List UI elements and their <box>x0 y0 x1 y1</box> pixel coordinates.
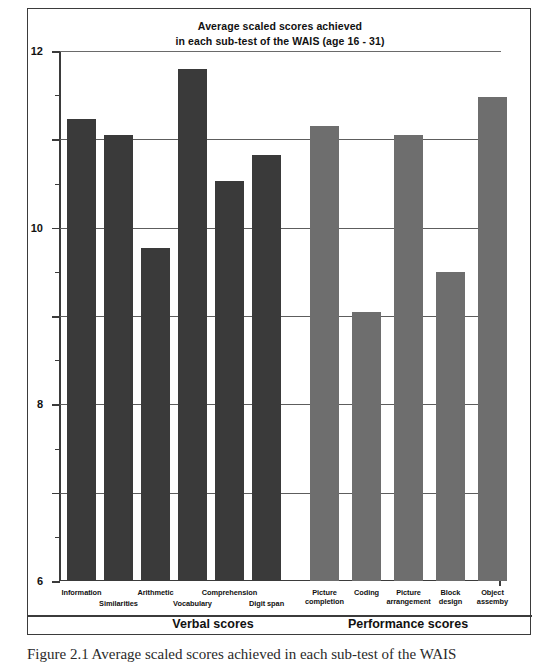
plot-area: 024681012 <box>59 51 501 581</box>
y-tick-label-8: 8 <box>37 398 43 410</box>
chart-title-line-1: Average scaled scores achieved <box>28 19 532 34</box>
x-label-vocabulary: Vocabulary <box>156 599 230 608</box>
x-label-object-assembly: Objectassemby <box>456 588 530 607</box>
y-minor-tick-11 <box>55 95 60 96</box>
bar-block-design <box>436 272 465 581</box>
y-tick-8: 8 <box>52 228 60 230</box>
bar-information <box>67 119 96 581</box>
bar-digit-span <box>252 155 281 581</box>
y-minor-tick-7 <box>55 272 60 273</box>
y-tick-0: 0 <box>52 581 60 583</box>
group-title-performance: Performance scores <box>298 617 518 631</box>
y-minor-tick-3 <box>55 449 60 450</box>
bar-picture-completion <box>310 126 339 581</box>
bar-similarities <box>104 135 133 581</box>
y-tick-label-10: 10 <box>31 222 43 234</box>
y-minor-tick-9 <box>55 184 60 185</box>
gridline-12 <box>59 51 501 52</box>
x-label-arithmetic: Arithmetic <box>119 588 193 597</box>
y-minor-tick-5 <box>55 360 60 361</box>
x-label-comprehension: Comprehension <box>193 588 267 597</box>
y-tick-10: 10 <box>52 139 60 141</box>
bar-picture-arrangement <box>394 135 423 581</box>
chart-title-line-2: in each sub-test of the WAIS (age 16 - 3… <box>28 34 532 49</box>
bar-arithmetic <box>141 248 170 581</box>
bar-coding <box>352 312 381 581</box>
x-label-similarities: Similarities <box>82 599 156 608</box>
group-title-verbal: Verbal scores <box>103 617 323 631</box>
y-tick-6: 6 <box>52 316 60 318</box>
bar-object-assembly <box>478 97 507 581</box>
y-tick-2: 2 <box>52 493 60 495</box>
y-tick-12: 12 <box>52 51 60 53</box>
figure-frame: Average scaled scores achieved in each s… <box>27 8 531 635</box>
chart-title: Average scaled scores achieved in each s… <box>28 19 532 48</box>
y-tick-4: 4 <box>52 404 60 406</box>
bar-vocabulary <box>178 69 207 581</box>
bar-comprehension <box>215 181 244 581</box>
y-minor-tick-1 <box>55 537 60 538</box>
y-tick-label-12: 12 <box>31 45 43 57</box>
figure-caption: Figure 2.1 Average scaled scores achieve… <box>27 645 537 664</box>
x-label-information: Information <box>45 588 119 597</box>
y-tick-label-6: 6 <box>37 575 43 587</box>
